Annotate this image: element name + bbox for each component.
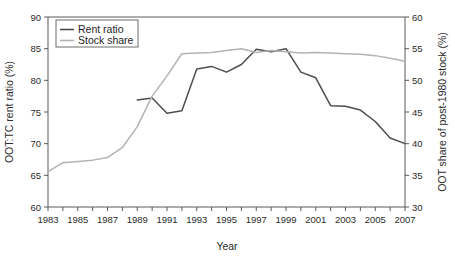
x-tick-label: 2003: [335, 214, 356, 225]
x-tick-label: 1985: [67, 214, 88, 225]
y-axis-right-ticks: 30354045505560: [405, 12, 423, 213]
x-tick-label: 2001: [305, 214, 326, 225]
series-lines: [48, 49, 405, 172]
y2-tick-label: 45: [412, 107, 423, 118]
y-tick-label: 65: [30, 170, 41, 181]
y2-tick-label: 60: [412, 12, 423, 23]
x-tick-label: 1983: [37, 214, 58, 225]
y-axis-left-ticks: 60657075808590: [30, 12, 48, 213]
x-axis-title: Year: [216, 240, 238, 252]
chart-legend: Rent ratio Stock share: [56, 20, 138, 47]
y-axis-right-title: OOT share of post-1980 stock (%): [436, 32, 448, 192]
y-tick-label: 90: [30, 12, 41, 23]
x-tick-label: 1997: [246, 214, 267, 225]
y2-tick-label: 40: [412, 138, 423, 149]
series-line-rent-ratio: [137, 49, 405, 144]
y2-tick-label: 55: [412, 43, 423, 54]
y-axis-left-title: OOT:TC rent ratio (%): [3, 61, 15, 163]
legend-label-stock-share: Stock share: [78, 34, 134, 46]
x-tick-label: 1995: [216, 214, 237, 225]
y-tick-label: 75: [30, 107, 41, 118]
x-tick-label: 1993: [186, 214, 207, 225]
y2-tick-label: 30: [412, 202, 423, 213]
x-axis-ticks: 1983198519871989199119931995199719992001…: [37, 207, 415, 225]
y-tick-label: 85: [30, 43, 41, 54]
y2-tick-label: 35: [412, 170, 423, 181]
y-tick-label: 80: [30, 75, 41, 86]
x-tick-label: 1989: [127, 214, 148, 225]
y-tick-label: 70: [30, 138, 41, 149]
x-tick-label: 1987: [97, 214, 118, 225]
x-tick-label: 1999: [275, 214, 296, 225]
y-tick-label: 60: [30, 202, 41, 213]
x-tick-label: 2005: [365, 214, 386, 225]
x-tick-label: 1991: [156, 214, 177, 225]
line-chart-svg: 1983198519871989199119931995199719992001…: [0, 0, 455, 259]
series-line-stock-share: [48, 49, 405, 172]
x-tick-label: 2007: [394, 214, 415, 225]
chart-figure: 1983198519871989199119931995199719992001…: [0, 0, 455, 259]
y2-tick-label: 50: [412, 75, 423, 86]
